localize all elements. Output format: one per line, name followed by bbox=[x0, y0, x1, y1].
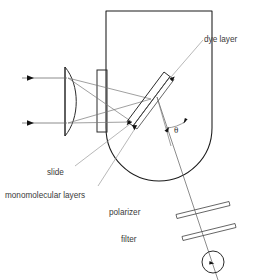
monomolecular-layers-label: monomolecular layers bbox=[5, 191, 85, 200]
optical-diagram: θ dye layer bbox=[0, 0, 275, 280]
leader-slide bbox=[75, 120, 132, 166]
leader-monomolecular-layers bbox=[98, 125, 137, 186]
detector bbox=[202, 251, 224, 273]
leader-dye-layer bbox=[169, 40, 203, 82]
incident-beam-upper bbox=[22, 75, 67, 81]
emission-beam bbox=[157, 97, 218, 280]
incident-beam-lower bbox=[22, 120, 67, 126]
slide bbox=[127, 72, 174, 129]
angle-theta: θ bbox=[157, 97, 188, 146]
lens bbox=[65, 67, 76, 136]
converging-rays bbox=[68, 78, 151, 123]
filter bbox=[182, 224, 236, 241]
polarizer bbox=[176, 202, 230, 219]
slide-label: slide bbox=[47, 168, 64, 177]
theta-label: θ bbox=[174, 125, 178, 135]
filter-label: filter bbox=[121, 235, 137, 244]
vessel bbox=[106, 11, 212, 181]
polarizer-label: polarizer bbox=[109, 208, 141, 217]
dye-layer-label: dye layer bbox=[204, 35, 237, 44]
